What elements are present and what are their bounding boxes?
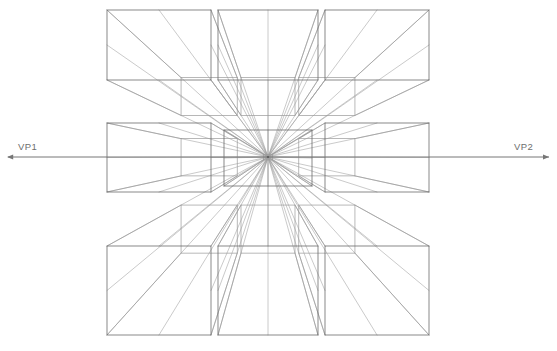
box-top-left-receding-edge [211,10,237,78]
box-middle-left-receding-edge [107,176,181,192]
vp2-label: VP2 [514,141,533,152]
box-top-right-near-face [325,10,429,80]
box-bottom-right-receding-edge [355,205,429,246]
box-middle-right-convergence-ray [268,157,377,192]
vanishing-point-marker [267,156,269,158]
box-bottom-left-receding-edge [211,253,237,335]
box-top-left-receding-edge [107,10,181,78]
box-bottom-left-receding-edge [211,205,237,246]
box-middle-left-convergence-ray [159,157,268,192]
box-top-left-near-face [107,10,211,80]
box-middle-left-convergence-ray [159,123,268,157]
box-bottom-left-near-face [107,246,211,335]
box-bottom-right-convergence-ray [268,157,429,291]
box-bottom-right-near-face [325,246,429,335]
box-top-left-receding-edge [211,80,237,115]
box-middle-right-receding-edge [355,123,429,139]
convergence-rays-layer [107,10,429,335]
box-bottom-right-receding-edge [299,205,325,246]
box-bottom-left-convergence-ray [211,157,268,291]
box-middle-left-receding-edge [107,123,181,139]
box-middle-right-receding-edge [355,176,429,192]
box-top-middle-receding-edge [295,10,318,78]
box-bottom-left-receding-edge [107,205,181,246]
box-top-right-receding-edge [299,80,325,115]
box-top-right-receding-edge [355,10,429,78]
box-bottom-right-receding-edge [299,253,325,335]
perspective-diagram-svg: VP1 VP2 [0,0,557,351]
box-bottom-left-receding-edge [107,253,181,335]
box-top-right-receding-edge [299,10,325,78]
box-bottom-right-convergence-ray [268,157,325,291]
box-top-middle-receding-edge [218,10,241,78]
vp1-label: VP1 [18,141,37,152]
box-middle-right-convergence-ray [268,123,377,157]
box-top-left-receding-edge [107,80,181,115]
box-top-right-receding-edge [355,80,429,115]
box-top-middle-convergence-ray [268,45,318,157]
box-top-middle-convergence-ray [218,45,268,157]
box-bottom-left-convergence-ray [107,157,268,291]
perspective-diagram-canvas: VP1 VP2 [0,0,557,351]
box-bottom-right-receding-edge [355,253,429,335]
